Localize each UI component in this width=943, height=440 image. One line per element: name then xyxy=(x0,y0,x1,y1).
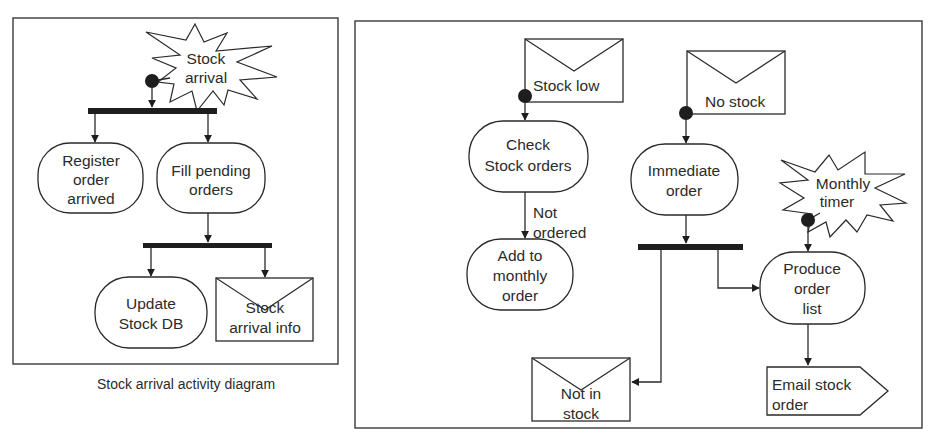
receive-point xyxy=(145,74,159,88)
receive-point xyxy=(679,106,693,120)
receive-point xyxy=(801,213,815,227)
burst-icon xyxy=(146,24,277,111)
svg-text:Monthly: Monthly xyxy=(816,175,871,192)
activity-produce-order-list[interactable]: Produce order list xyxy=(760,252,865,324)
svg-text:Stock DB: Stock DB xyxy=(119,315,184,332)
svg-text:timer: timer xyxy=(820,193,854,210)
signal-no-stock[interactable]: No stock xyxy=(687,51,785,114)
stock-arrival-event: Stock arrival xyxy=(146,24,277,111)
fork-bar-1 xyxy=(88,108,217,114)
activity-register-order-arrived[interactable]: Register order arrived xyxy=(38,143,143,213)
svg-text:arrived: arrived xyxy=(67,190,114,207)
svg-text:order: order xyxy=(502,287,538,304)
flow-to-not-in-stock xyxy=(632,250,661,382)
event-label-line1: Stock xyxy=(187,50,226,67)
activity-check-stock-orders[interactable]: Check Stock orders xyxy=(469,121,588,192)
svg-text:Produce: Produce xyxy=(783,260,841,277)
receive-point xyxy=(518,89,532,103)
fork-bar-3 xyxy=(638,244,743,250)
diagram-canvas: Stock arrival Register order arrived Fil… xyxy=(0,0,943,440)
svg-text:order: order xyxy=(772,396,808,413)
svg-text:Stock orders: Stock orders xyxy=(484,157,571,174)
svg-text:Check: Check xyxy=(506,136,550,153)
svg-text:monthly: monthly xyxy=(493,267,548,284)
fork-bar-2 xyxy=(143,243,272,248)
activity-fill-pending-orders[interactable]: Fill pending orders xyxy=(157,143,265,213)
svg-text:Register: Register xyxy=(62,152,120,169)
monthly-timer-event: Monthly timer xyxy=(780,152,906,237)
svg-text:order: order xyxy=(666,182,702,199)
send-signal-email-stock-order[interactable]: Email stock order xyxy=(767,367,888,415)
activity-immediate-order[interactable]: Immediate order xyxy=(631,144,738,215)
stock-ordering-diagram: Stock low Check Stock orders Not ordered… xyxy=(355,21,922,428)
activity-update-stock-db[interactable]: Update Stock DB xyxy=(95,277,207,348)
signal-stock-arrival-info[interactable]: Stock arrival info xyxy=(216,278,313,341)
svg-text:Fill pending: Fill pending xyxy=(171,162,250,179)
svg-text:Not in: Not in xyxy=(561,385,602,402)
svg-text:arrival info: arrival info xyxy=(229,319,301,336)
svg-text:list: list xyxy=(803,300,823,317)
svg-text:Immediate: Immediate xyxy=(648,162,720,179)
signal-not-in-stock[interactable]: Not in stock xyxy=(532,358,630,422)
svg-text:Stock: Stock xyxy=(246,299,285,316)
svg-text:Stock low: Stock low xyxy=(533,77,600,94)
svg-text:order: order xyxy=(73,171,109,188)
stock-arrival-diagram: Stock arrival Register order arrived Fil… xyxy=(13,18,338,392)
svg-text:No stock: No stock xyxy=(705,93,766,110)
diagram-caption: Stock arrival activity diagram xyxy=(97,376,275,392)
svg-text:order: order xyxy=(794,280,830,297)
svg-text:orders: orders xyxy=(189,181,233,198)
event-label-line2: arrival xyxy=(185,69,227,86)
svg-text:Add to: Add to xyxy=(498,247,543,264)
activity-add-to-monthly-order[interactable]: Add to monthly order xyxy=(467,239,573,310)
guard-label-line1: Not xyxy=(533,204,558,221)
svg-text:Update: Update xyxy=(126,295,176,312)
svg-text:Email stock: Email stock xyxy=(772,376,851,393)
signal-stock-low[interactable]: Stock low xyxy=(525,39,623,102)
svg-text:stock: stock xyxy=(563,405,599,422)
flow-to-produce-list xyxy=(718,250,759,288)
